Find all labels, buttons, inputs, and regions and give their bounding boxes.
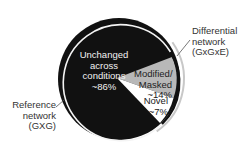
reference-leader-line xyxy=(56,100,64,107)
label-novel-line1: Novel xyxy=(138,96,168,107)
label-reference-network: Reference network (GXG) xyxy=(4,100,56,132)
label-novel-value: ~7% xyxy=(138,107,168,118)
differential-leader-line xyxy=(177,40,190,56)
label-modified-line1: Modified/ xyxy=(134,69,172,80)
label-differential-line3: (GxGxE) xyxy=(192,47,247,58)
label-unchanged: Unchanged across conditions ~86% xyxy=(74,50,134,92)
label-reference-line3: (GXG) xyxy=(4,121,56,132)
label-unchanged-line3: conditions xyxy=(74,71,134,82)
label-differential-line1: Differential xyxy=(192,26,247,37)
label-reference-line1: Reference xyxy=(4,100,56,111)
label-unchanged-value: ~86% xyxy=(74,82,134,93)
label-differential-network: Differential network (GxGxE) xyxy=(192,26,247,58)
label-unchanged-line1: Unchanged xyxy=(74,50,134,61)
label-novel: Novel ~7% xyxy=(138,96,168,117)
